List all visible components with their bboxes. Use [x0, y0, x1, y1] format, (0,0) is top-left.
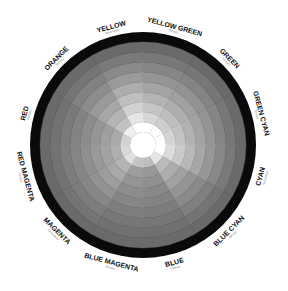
center-white-disk: [130, 132, 156, 158]
color-wheel: YELLOWSecondaryYELLOW GREENTertiaryGREEN…: [0, 0, 288, 291]
